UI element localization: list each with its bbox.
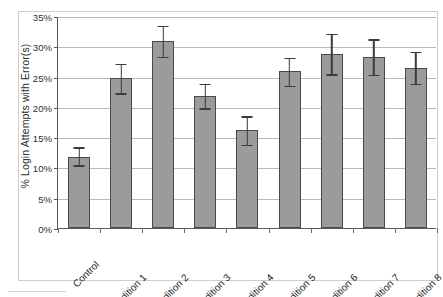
y-tick-label: 0% bbox=[38, 224, 52, 235]
scan-artifact-line bbox=[8, 291, 66, 292]
x-tick-mark bbox=[395, 228, 396, 233]
y-tick-label: 35% bbox=[33, 12, 52, 23]
bar bbox=[152, 41, 174, 228]
y-tick-label: 5% bbox=[38, 193, 52, 204]
error-bar-line bbox=[78, 147, 79, 166]
error-bar-line bbox=[415, 52, 416, 86]
y-tick-label: 10% bbox=[33, 163, 52, 174]
error-bar-cap-top bbox=[74, 147, 85, 148]
error-bar bbox=[410, 52, 421, 86]
error-bar bbox=[326, 34, 337, 76]
bar-group bbox=[226, 17, 268, 228]
error-bar-cap-bottom bbox=[410, 84, 421, 85]
error-bar-cap-top bbox=[284, 58, 295, 59]
error-bar bbox=[116, 64, 127, 95]
x-tick-mark bbox=[58, 228, 59, 233]
x-tick-mark bbox=[184, 228, 185, 233]
x-tick-mark bbox=[311, 228, 312, 233]
error-bar-line bbox=[331, 34, 332, 76]
y-tick-label: 30% bbox=[33, 42, 52, 53]
plot-area: 0%5%10%15%20%25%30%35% bbox=[57, 17, 436, 229]
error-bar bbox=[368, 39, 379, 76]
bar-group bbox=[184, 17, 226, 228]
y-tick-label: 25% bbox=[33, 72, 52, 83]
error-bar-cap-bottom bbox=[116, 93, 127, 94]
bar-group bbox=[58, 17, 100, 228]
x-tick-mark bbox=[100, 228, 101, 233]
error-bar-line bbox=[163, 26, 164, 58]
error-bar bbox=[74, 147, 85, 166]
error-bar-cap-top bbox=[116, 64, 127, 65]
y-axis-title: % Login Attempts with Error(s) bbox=[19, 9, 31, 224]
y-tick-label: 15% bbox=[33, 133, 52, 144]
error-bar-cap-top bbox=[368, 39, 379, 40]
bar bbox=[110, 78, 132, 228]
error-bar-cap-bottom bbox=[284, 86, 295, 87]
bar-group bbox=[142, 17, 184, 228]
bar-group bbox=[100, 17, 142, 228]
bar bbox=[194, 96, 216, 228]
error-bar-line bbox=[120, 64, 121, 95]
bar bbox=[279, 71, 301, 228]
error-bar-cap-bottom bbox=[74, 165, 85, 166]
error-bar-cap-bottom bbox=[158, 57, 169, 58]
error-bar-cap-top bbox=[326, 34, 337, 35]
bar-group bbox=[353, 17, 395, 228]
x-tick-mark bbox=[226, 228, 227, 233]
error-bar bbox=[158, 26, 169, 58]
bar-group bbox=[269, 17, 311, 228]
error-bar-cap-bottom bbox=[200, 108, 211, 109]
error-bar-cap-bottom bbox=[326, 74, 337, 75]
x-tick-mark bbox=[142, 228, 143, 233]
x-tick-mark bbox=[437, 228, 438, 233]
error-bar bbox=[200, 84, 211, 110]
error-bar-line bbox=[247, 116, 248, 146]
error-bar-cap-top bbox=[242, 116, 253, 117]
error-bar-cap-top bbox=[200, 84, 211, 85]
x-tick-mark bbox=[269, 228, 270, 233]
error-bar-cap-bottom bbox=[242, 145, 253, 146]
error-bar bbox=[284, 58, 295, 88]
error-bar-cap-bottom bbox=[368, 75, 379, 76]
x-tick-mark bbox=[353, 228, 354, 233]
error-bar-cap-top bbox=[158, 26, 169, 27]
error-bar-line bbox=[205, 84, 206, 110]
bar bbox=[321, 54, 343, 228]
y-tick-label: 20% bbox=[33, 102, 52, 113]
bar-group bbox=[395, 17, 437, 228]
bar-group bbox=[311, 17, 353, 228]
chart-figure: % Login Attempts with Error(s) 0%5%10%15… bbox=[0, 0, 443, 297]
bar bbox=[68, 157, 90, 228]
bar bbox=[363, 57, 385, 228]
error-bar bbox=[242, 116, 253, 146]
error-bar-cap-top bbox=[410, 52, 421, 53]
error-bar-line bbox=[373, 39, 374, 76]
bar bbox=[405, 68, 427, 229]
error-bar-line bbox=[289, 58, 290, 88]
